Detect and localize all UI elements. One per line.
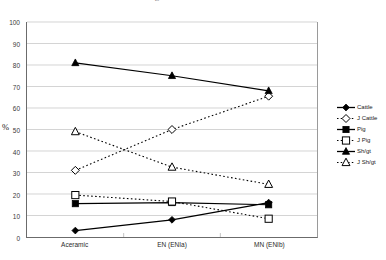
series-j-sh-gt bbox=[71, 127, 272, 187]
legend-item-j-cattle[interactable]: J Cattle bbox=[336, 113, 386, 124]
legend-marker-filled-triangle-icon bbox=[336, 146, 356, 157]
y-axis-title: % bbox=[2, 122, 9, 132]
y-tick-label: 100 bbox=[9, 19, 20, 26]
data-point-open-diamond bbox=[168, 126, 176, 134]
legend-marker-open-diamond-icon bbox=[336, 113, 356, 124]
legend-item-pig[interactable]: Pig bbox=[336, 124, 386, 135]
legend-item-label: Sh/gt bbox=[356, 148, 371, 155]
x-axis-tick-labels: AceramicEN (ENIa)MN (ENIb) bbox=[26, 241, 318, 255]
legend-item-label: J Cattle bbox=[356, 115, 377, 122]
y-tick-label: 10 bbox=[13, 213, 20, 220]
y-tick-label: 30 bbox=[13, 170, 20, 177]
legend-item-j-sh-gt[interactable]: J Sh/gt bbox=[336, 157, 386, 168]
series-sh-gt bbox=[72, 59, 272, 94]
data-point-filled-square bbox=[343, 126, 349, 132]
data-point-open-square bbox=[72, 191, 79, 198]
x-tick-label: MN (ENIb) bbox=[254, 241, 285, 249]
data-point-filled-diamond bbox=[343, 104, 350, 111]
legend-item-cattle[interactable]: Cattle bbox=[336, 102, 386, 113]
legend-item-label: J Sh/gt bbox=[356, 159, 376, 166]
y-tick-label: 90 bbox=[13, 40, 20, 47]
data-point-filled-triangle bbox=[72, 59, 79, 66]
data-point-open-diamond bbox=[342, 115, 350, 123]
y-tick-label: 80 bbox=[13, 62, 20, 69]
chart-figure: faint cut-off line of text above the fig… bbox=[0, 0, 386, 260]
y-tick-label: 20 bbox=[13, 191, 20, 198]
data-point-filled-diamond bbox=[169, 216, 176, 223]
legend-item-sh-gt[interactable]: Sh/gt bbox=[336, 146, 386, 157]
y-tick-label: 70 bbox=[13, 83, 20, 90]
legend-marker-filled-square-icon bbox=[336, 124, 356, 135]
legend-item-label: Pig bbox=[356, 126, 366, 133]
data-point-filled-square bbox=[266, 202, 272, 208]
plot-area bbox=[26, 22, 318, 238]
data-point-open-triangle bbox=[265, 180, 273, 187]
x-tick-label: EN (ENIa) bbox=[157, 241, 187, 249]
data-point-open-triangle bbox=[342, 158, 350, 165]
y-tick-label: 50 bbox=[13, 127, 20, 134]
y-tick-label: 40 bbox=[13, 148, 20, 155]
data-point-open-diamond bbox=[71, 166, 79, 174]
data-point-filled-diamond bbox=[72, 227, 79, 234]
data-point-open-triangle bbox=[71, 127, 79, 134]
y-tick-label: 0 bbox=[16, 235, 20, 242]
legend-marker-open-triangle-icon bbox=[336, 157, 356, 168]
data-point-open-square bbox=[342, 137, 349, 144]
x-tick-label: Aceramic bbox=[61, 241, 88, 249]
x-axis-ticks bbox=[124, 233, 221, 237]
legend-item-label: Cattle bbox=[356, 104, 373, 111]
y-tick-label: 60 bbox=[13, 105, 20, 112]
legend-marker-filled-diamond-icon bbox=[336, 102, 356, 113]
data-point-open-square bbox=[265, 215, 272, 222]
data-point-open-square bbox=[168, 198, 175, 205]
data-point-filled-square bbox=[72, 201, 78, 207]
caption-remnant-text: faint cut-off line of text above the fig… bbox=[18, 0, 368, 1]
chart-legend: CattleJ CattlePigJ PigSh/gtJ Sh/gt bbox=[336, 102, 386, 168]
caption-remnant: faint cut-off line of text above the fig… bbox=[0, 0, 386, 10]
legend-item-label: J Pig bbox=[356, 137, 370, 144]
legend-marker-open-square-icon bbox=[336, 135, 356, 146]
gridlines bbox=[27, 22, 317, 216]
plot-svg bbox=[27, 22, 317, 237]
legend-item-j-pig[interactable]: J Pig bbox=[336, 135, 386, 146]
